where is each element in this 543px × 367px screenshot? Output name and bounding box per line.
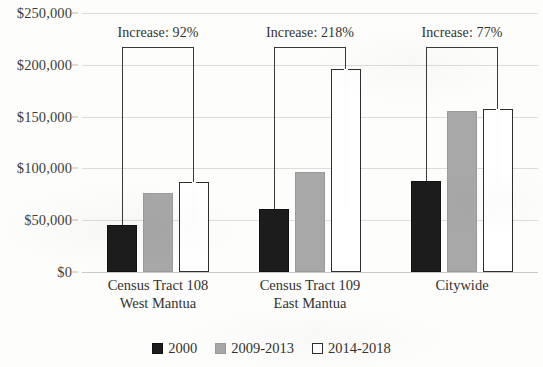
y-axis-tick-mark (71, 220, 78, 221)
y-axis-tick-label: $0 (57, 264, 72, 281)
bar (259, 209, 289, 272)
y-axis-tick-mark (71, 168, 78, 169)
legend-item[interactable]: 2000 (152, 340, 197, 357)
x-axis-category-label: Census Tract 109East Mantua (260, 276, 361, 312)
legend-item[interactable]: 2009-2013 (215, 340, 294, 357)
increase-annotation-label: Increase: 218% (266, 25, 354, 41)
legend-label: 2009-2013 (231, 340, 294, 357)
legend-swatch-icon (312, 343, 323, 354)
category-label-line: Census Tract 109 (260, 276, 361, 294)
x-axis-category-label: Census Tract 108West Mantua (108, 276, 209, 312)
y-axis-tick-label: $250,000 (17, 5, 72, 22)
bracket-leg-mask (344, 69, 348, 209)
y-axis-tick-mark (71, 272, 78, 273)
bar (107, 225, 137, 272)
increase-annotation-label: Increase: 77% (422, 25, 503, 41)
bar (411, 181, 441, 272)
y-axis-tick-label: $150,000 (17, 108, 72, 125)
axis-baseline (82, 272, 538, 273)
plot-area: Increase: 92%Increase: 218%Increase: 77% (82, 13, 538, 272)
increase-bracket (274, 47, 346, 209)
y-axis-tick-label: $50,000 (24, 212, 72, 229)
y-axis-tick-label: $200,000 (17, 56, 72, 73)
legend-swatch-icon (152, 343, 163, 354)
x-axis-category-labels: Census Tract 108West MantuaCensus Tract … (82, 276, 538, 324)
legend-swatch-icon (215, 343, 226, 354)
y-axis-tick-mark (71, 64, 78, 65)
legend-label: 2014-2018 (328, 340, 391, 357)
y-axis-tick-mark (71, 13, 78, 14)
bracket-leg-mask (192, 182, 196, 226)
y-axis-tick-mark (71, 116, 78, 117)
category-label-line: Census Tract 108 (108, 276, 209, 294)
chart-legend: 20002009-20132014-2018 (0, 340, 543, 357)
category-label-line: West Mantua (108, 294, 209, 312)
bracket-leg-mask (496, 109, 500, 180)
category-label-line: Citywide (435, 276, 488, 294)
increase-annotation-label: Increase: 92% (118, 25, 199, 41)
increase-bracket (426, 47, 498, 181)
bar-chart: $0$50,000$100,000$150,000$200,000$250,00… (0, 0, 543, 367)
x-axis-category-label: Citywide (435, 276, 488, 294)
legend-item[interactable]: 2014-2018 (312, 340, 391, 357)
increase-bracket (122, 47, 194, 225)
legend-label: 2000 (168, 340, 197, 357)
category-label-line: East Mantua (260, 294, 361, 312)
y-axis: $0$50,000$100,000$150,000$200,000$250,00… (0, 0, 78, 367)
y-axis-tick-label: $100,000 (17, 160, 72, 177)
